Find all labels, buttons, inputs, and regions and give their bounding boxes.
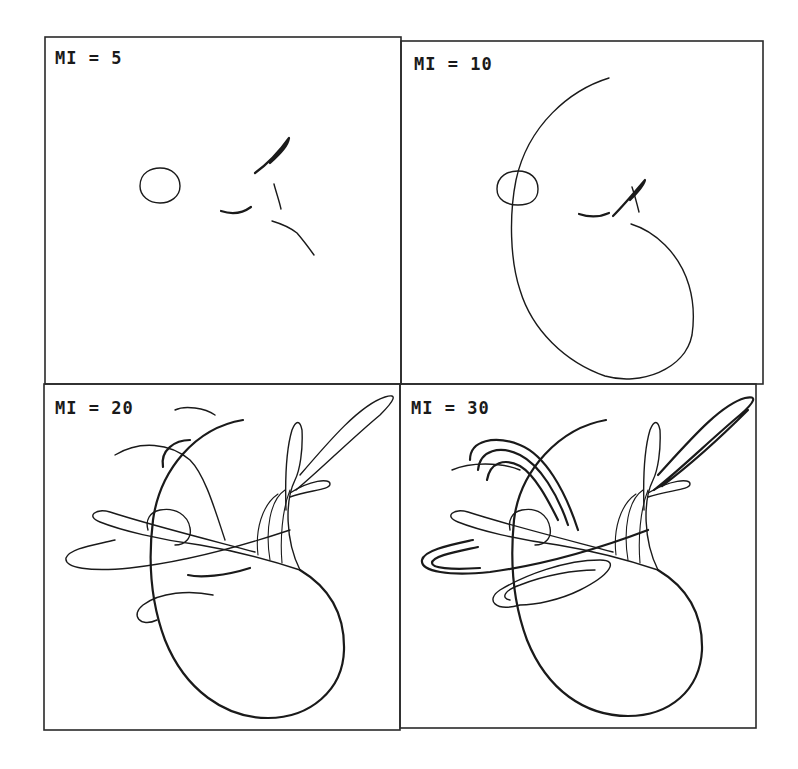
panel-label: MI = 5 <box>55 48 122 68</box>
panel-label: MI = 10 <box>414 54 493 74</box>
panel-label: MI = 20 <box>55 398 134 418</box>
panel-label: MI = 30 <box>411 398 490 418</box>
attractor-figure: MI = 5 MI = 10 MI = 20 MI = 30 <box>0 0 798 769</box>
